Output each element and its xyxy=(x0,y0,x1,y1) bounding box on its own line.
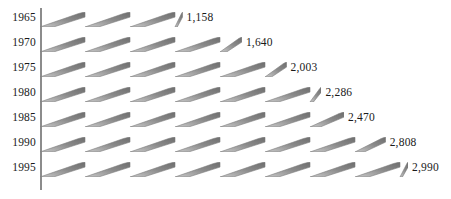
sawtooth-segment xyxy=(175,37,220,52)
sawtooth-segment xyxy=(310,87,321,102)
chart-row: 19802,286 xyxy=(0,83,451,106)
sawtooth-segment xyxy=(175,112,220,127)
sawtooth-segment xyxy=(220,162,265,177)
category-label-1990: 1990 xyxy=(0,136,36,148)
sawtooth-segment xyxy=(400,162,408,177)
value-label-1990: 2,808 xyxy=(390,136,417,148)
sawtooth-segment xyxy=(85,112,130,127)
sawtooth-segment xyxy=(265,162,310,177)
sawtooth-segment xyxy=(175,162,220,177)
sawtooth-segment xyxy=(40,162,85,177)
sawtooth-segment xyxy=(220,112,265,127)
sawtooth-segment xyxy=(220,62,265,77)
chart-row: 19902,808 xyxy=(0,133,451,156)
sawtooth-segment xyxy=(130,12,175,27)
sawtooth-segment xyxy=(310,137,355,152)
sawtooth-segment xyxy=(310,162,355,177)
category-label-1980: 1980 xyxy=(0,86,36,98)
sawtooth-bar-1980 xyxy=(40,87,321,102)
sawtooth-segment xyxy=(310,112,344,127)
category-label-1995: 1995 xyxy=(0,161,36,173)
sawtooth-bar-1970 xyxy=(40,37,242,52)
sawtooth-segment xyxy=(40,87,85,102)
sawtooth-segment xyxy=(40,137,85,152)
sawtooth-segment xyxy=(130,137,175,152)
chart-row: 19852,470 xyxy=(0,108,451,131)
sawtooth-segment xyxy=(220,137,265,152)
sawtooth-bar-1985 xyxy=(40,112,344,127)
sawtooth-bar-1990 xyxy=(40,137,386,152)
sawtooth-segment xyxy=(355,137,386,152)
sawtooth-segment xyxy=(175,62,220,77)
sawtooth-bar-1995 xyxy=(40,162,408,177)
sawtooth-bar-1975 xyxy=(40,62,287,77)
category-label-1985: 1985 xyxy=(0,111,36,123)
sawtooth-segment xyxy=(40,62,85,77)
sawtooth-segment xyxy=(130,162,175,177)
sawtooth-bar-chart: 19651,15819701,64019752,00319802,2861985… xyxy=(0,0,451,199)
sawtooth-segment xyxy=(85,62,130,77)
sawtooth-segment xyxy=(175,137,220,152)
sawtooth-segment xyxy=(175,87,220,102)
value-label-1970: 1,640 xyxy=(246,36,273,48)
sawtooth-segment xyxy=(40,12,85,27)
sawtooth-segment xyxy=(40,112,85,127)
sawtooth-segment xyxy=(175,12,183,27)
value-label-1995: 2,990 xyxy=(412,161,439,173)
sawtooth-segment xyxy=(265,87,310,102)
sawtooth-bar-1965 xyxy=(40,12,183,27)
sawtooth-segment xyxy=(85,87,130,102)
chart-row: 19752,003 xyxy=(0,58,451,81)
sawtooth-segment xyxy=(265,112,310,127)
sawtooth-segment xyxy=(85,12,130,27)
sawtooth-segment xyxy=(355,162,400,177)
value-label-1980: 2,286 xyxy=(325,86,352,98)
chart-row: 19651,158 xyxy=(0,8,451,31)
sawtooth-segment xyxy=(40,37,85,52)
sawtooth-segment xyxy=(85,37,130,52)
category-label-1970: 1970 xyxy=(0,36,36,48)
value-label-1965: 1,158 xyxy=(187,11,214,23)
chart-row: 19952,990 xyxy=(0,158,451,181)
category-label-1975: 1975 xyxy=(0,61,36,73)
sawtooth-segment xyxy=(220,87,265,102)
sawtooth-segment xyxy=(130,87,175,102)
sawtooth-segment xyxy=(220,37,242,52)
chart-row: 19701,640 xyxy=(0,33,451,56)
sawtooth-segment xyxy=(265,137,310,152)
sawtooth-segment xyxy=(85,137,130,152)
value-label-1975: 2,003 xyxy=(291,61,318,73)
sawtooth-segment xyxy=(130,112,175,127)
sawtooth-segment xyxy=(265,62,287,77)
sawtooth-segment xyxy=(85,162,130,177)
value-label-1985: 2,470 xyxy=(348,111,375,123)
sawtooth-segment xyxy=(130,37,175,52)
category-label-1965: 1965 xyxy=(0,11,36,23)
sawtooth-segment xyxy=(130,62,175,77)
